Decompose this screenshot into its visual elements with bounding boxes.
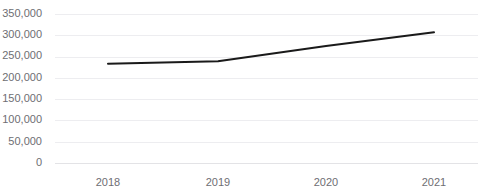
- y-axis-tick-label: 0: [36, 156, 42, 168]
- x-axis-tick-labels: 2018201920202021: [96, 176, 446, 188]
- data-series: [108, 32, 434, 64]
- x-axis-tick-label: 2021: [422, 176, 446, 188]
- y-axis-tick-labels: 050,000100,000150,000200,000250,000300,0…: [2, 7, 42, 168]
- y-axis-tick-label: 350,000: [2, 7, 42, 19]
- chart-canvas: 050,000100,000150,000200,000250,000300,0…: [0, 0, 491, 194]
- y-axis-tick-label: 200,000: [2, 71, 42, 83]
- x-axis-tick-label: 2019: [206, 176, 230, 188]
- y-axis-tick-label: 150,000: [2, 92, 42, 104]
- series-line: [108, 32, 434, 64]
- y-axis-tick-label: 250,000: [2, 49, 42, 61]
- x-axis-tick-label: 2020: [314, 176, 338, 188]
- y-axis-tick-label: 300,000: [2, 28, 42, 40]
- y-axis-tick-label: 100,000: [2, 113, 42, 125]
- line-chart: 050,000100,000150,000200,000250,000300,0…: [0, 0, 491, 194]
- y-axis-tick-label: 50,000: [8, 135, 42, 147]
- x-axis-tick-label: 2018: [96, 176, 120, 188]
- gridlines: [55, 15, 478, 164]
